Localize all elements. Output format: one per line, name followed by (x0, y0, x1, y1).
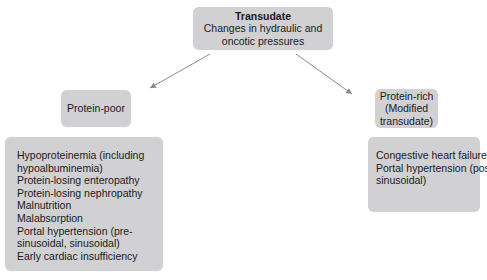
transudate-title: Transudate (235, 10, 291, 23)
arrow-to-protein-poor (150, 54, 210, 88)
arrow-to-protein-rich (296, 54, 352, 94)
transudate-subtitle-1: Changes in hydraulic and (204, 22, 323, 35)
list-item: Portal hypertension (pre- (17, 225, 163, 238)
protein-poor-node: Protein-poor (61, 90, 131, 127)
list-item: Protein-losing enteropathy (17, 174, 163, 187)
protein-rich-causes-list: Congestive heart failure Portal hyperten… (368, 137, 480, 212)
list-item: Congestive heart failure (376, 149, 480, 162)
list-item: Hypoproteinemia (including (17, 149, 163, 162)
transudate-node: Transudate Changes in hydraulic and onco… (193, 7, 333, 50)
protein-rich-node: Protein-rich (Modified transudate) (375, 89, 438, 128)
list-item: Protein-losing nephropathy (17, 187, 163, 200)
list-item: Portal hypertension (post- (376, 162, 480, 175)
list-item: sinusoidal, sinusoidal) (17, 237, 163, 250)
list-item: Malnutrition (17, 199, 163, 212)
protein-poor-causes-list: Hypoproteinemia (including hypoalbuminem… (5, 137, 163, 271)
list-item: hypoalbuminemia) (17, 162, 163, 175)
protein-rich-label-1: Protein-rich (380, 90, 434, 103)
list-item: sinusoidal) (376, 174, 480, 187)
protein-rich-label-3: transudate) (380, 115, 433, 128)
protein-poor-label: Protein-poor (67, 102, 125, 115)
transudate-subtitle-2: oncotic pressures (222, 35, 304, 48)
list-item: Early cardiac insufficiency (17, 250, 163, 263)
protein-rich-label-2: (Modified (385, 102, 428, 115)
list-item: Malabsorption (17, 212, 163, 225)
